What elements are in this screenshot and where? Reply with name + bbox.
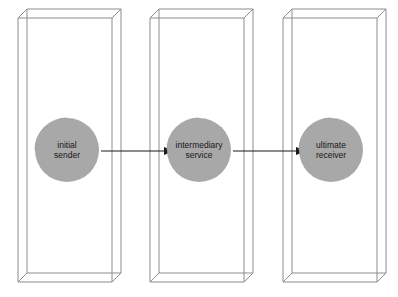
box-right-face	[377, 9, 386, 282]
message-path-diagram: initial sender intermediary service ulti…	[0, 0, 398, 297]
node-ultimate-receiver[interactable]	[299, 118, 363, 182]
box-right-face	[244, 9, 253, 282]
box-top-face	[150, 9, 253, 18]
box-right-face	[112, 9, 121, 282]
diagram-canvas	[0, 0, 398, 297]
node-initial-sender[interactable]	[35, 118, 99, 182]
node-intermediary-service[interactable]	[167, 118, 231, 182]
box-top-face	[283, 9, 386, 18]
box-top-face	[18, 9, 121, 18]
